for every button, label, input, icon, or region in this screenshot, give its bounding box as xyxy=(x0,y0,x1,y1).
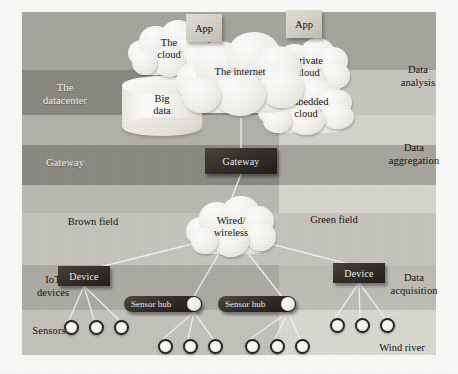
sensor-node-s10[interactable] xyxy=(330,318,345,333)
cloud-wired-wireless-label: Wired/wireless xyxy=(186,215,276,239)
cylinder-bottom xyxy=(122,117,202,136)
sensor-node-s8[interactable] xyxy=(270,339,285,354)
device-node-right[interactable]: Device xyxy=(333,263,385,283)
app-right[interactable]: App xyxy=(286,10,322,38)
label-green-field: Green field xyxy=(288,214,380,227)
sensor-hub-left-label: Sensor hub xyxy=(124,299,171,309)
band-label-datacenter: The datacenter xyxy=(22,82,108,107)
big-data-label: Bigdata xyxy=(122,93,202,117)
sensor-hub-right-label: Sensor hub xyxy=(218,299,265,309)
label-wind-river: Wind river xyxy=(356,342,448,355)
sensor-node-s6[interactable] xyxy=(208,339,223,354)
hub-indicator-icon xyxy=(281,297,295,311)
diagram-canvas: The datacenter Gateway IoT devices Senso… xyxy=(0,0,458,374)
sensor-node-s12[interactable] xyxy=(380,318,395,333)
cloud-wired-wireless: Wired/wireless xyxy=(186,196,276,258)
sensor-node-s3[interactable] xyxy=(114,320,129,335)
sensor-node-s7[interactable] xyxy=(245,339,260,354)
hub-indicator-icon xyxy=(187,297,201,311)
band-label-data-acquisition: Data acquisition xyxy=(374,272,454,297)
sensor-node-s2[interactable] xyxy=(89,320,104,335)
label-brown-field: Brown field xyxy=(48,216,138,229)
sensor-node-s9[interactable] xyxy=(295,339,310,354)
sensor-node-s4[interactable] xyxy=(158,339,173,354)
device-node-left[interactable]: Device xyxy=(58,266,110,286)
app-left[interactable]: App xyxy=(186,14,222,42)
band-label-data-analysis: Data analysis xyxy=(386,64,450,89)
band-right-data-aggregation xyxy=(279,185,436,213)
sensor-hub-left[interactable]: Sensor hub xyxy=(124,296,202,312)
sensor-node-s11[interactable] xyxy=(355,318,370,333)
gateway-node[interactable]: Gateway xyxy=(205,148,277,174)
sensor-node-s1[interactable] xyxy=(64,320,79,335)
sensor-node-s5[interactable] xyxy=(183,339,198,354)
band-label-gateway: Gateway xyxy=(22,157,108,170)
cloud-the-internet-label: The internet xyxy=(176,66,304,78)
band-label-data-aggregation: Data aggregation xyxy=(374,142,454,167)
sensor-hub-right[interactable]: Sensor hub xyxy=(218,296,296,312)
band-data-analysis xyxy=(22,115,436,145)
